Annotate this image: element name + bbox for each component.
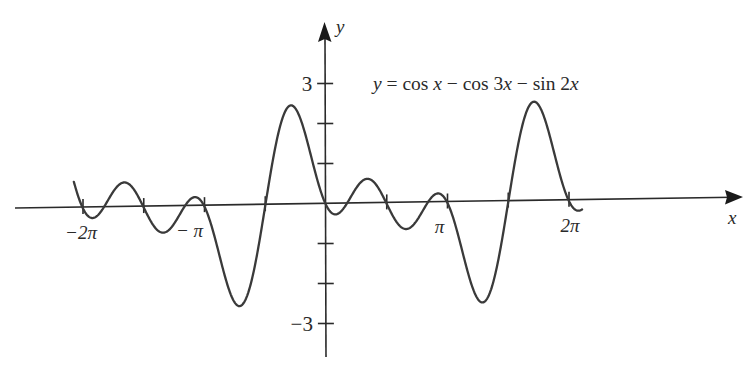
- equation-eq: =: [382, 73, 403, 94]
- x-tick-label: 2π: [560, 215, 580, 236]
- equation-lhs: y: [371, 73, 382, 94]
- x-axis-label: x: [727, 207, 737, 228]
- y-axis: [325, 38, 326, 357]
- y-axis-label: y: [334, 16, 345, 37]
- function-plot: x y −2π− ππ2π3−3 y = cos x − cos 3x − si…: [0, 0, 756, 371]
- equation-label: y = cos x − cos 3x − sin 2x: [371, 73, 579, 94]
- y-axis-arrow-icon: [318, 22, 332, 42]
- equation-term3: sin 2: [533, 73, 570, 94]
- equation-minus1: −: [442, 73, 463, 94]
- equation-term2: cos 3: [463, 73, 504, 94]
- x-axis: [15, 197, 733, 208]
- equation-term2-var: x: [502, 73, 512, 94]
- x-tick-label: π: [435, 216, 445, 237]
- equation-term1-var: x: [432, 73, 442, 94]
- x-tick-label: −2π: [65, 222, 97, 243]
- y-tick-label: 3: [302, 72, 313, 96]
- x-tick-label: − π: [176, 220, 204, 241]
- y-tick-label: −3: [291, 312, 313, 336]
- equation-term1: cos: [402, 73, 433, 94]
- equation-term3-var: x: [569, 73, 579, 94]
- x-axis-arrow-icon: [725, 190, 743, 205]
- equation-minus2: −: [512, 73, 533, 94]
